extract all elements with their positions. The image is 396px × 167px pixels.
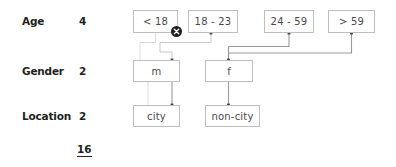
node-location-city[interactable]: city xyxy=(133,105,180,127)
node-age-lt18-label: < 18 xyxy=(143,16,168,27)
diagram-canvas: Age 4 Gender 2 Location 2 16 < 18 18 - 2… xyxy=(0,0,396,167)
node-location-non-city-label: non-city xyxy=(211,111,253,122)
wire-lt18-to-m xyxy=(140,33,156,60)
node-gender-m-label: m xyxy=(152,66,162,77)
node-location-non-city[interactable]: non-city xyxy=(205,105,260,127)
node-age-24-59-label: 24 - 59 xyxy=(271,16,308,27)
node-age-18-23-label: 18 - 23 xyxy=(195,16,232,27)
node-age-18-23[interactable]: 18 - 23 xyxy=(188,10,238,33)
node-gender-f[interactable]: f xyxy=(205,60,253,82)
node-gender-m[interactable]: m xyxy=(133,60,180,82)
close-x-icon xyxy=(173,28,180,35)
node-age-gt59[interactable]: > 59 xyxy=(328,10,375,33)
node-age-gt59-label: > 59 xyxy=(339,16,364,27)
node-gender-f-label: f xyxy=(227,66,231,77)
wire-24-59-to-f xyxy=(229,33,290,60)
wire-18-23-to-m xyxy=(160,33,211,60)
exclude-x-badge[interactable] xyxy=(171,26,182,37)
node-age-24-59[interactable]: 24 - 59 xyxy=(264,10,314,33)
node-location-city-label: city xyxy=(147,111,166,122)
